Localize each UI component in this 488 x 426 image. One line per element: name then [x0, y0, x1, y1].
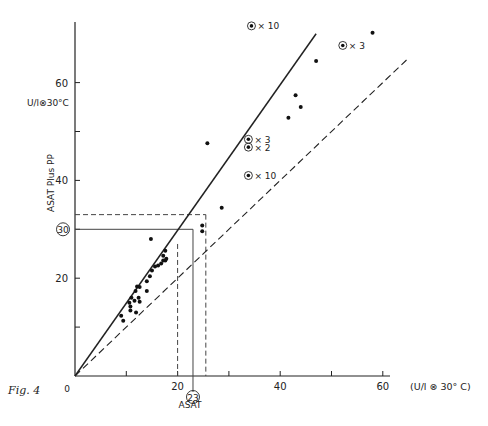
x-tick-label: 20: [171, 381, 184, 392]
multi-point-count: × 10: [257, 21, 279, 31]
x-axis-label: ASAT: [179, 400, 202, 410]
multi-point-count: × 3: [349, 41, 365, 51]
data-point: [299, 105, 303, 109]
data-point: [137, 296, 141, 300]
data-point: [200, 223, 204, 227]
data-point: [149, 237, 153, 241]
data-point: [220, 206, 224, 210]
multi-point-dot: [247, 174, 251, 178]
circled-y-label: 30: [57, 225, 69, 235]
data-point: [205, 141, 209, 145]
data-point: [161, 254, 165, 258]
data-point: [148, 274, 152, 278]
regression-line: [75, 34, 316, 376]
y-ticks: [75, 83, 80, 328]
multiple-points: × 10× 3× 3× 2× 10: [244, 21, 365, 181]
data-point: [129, 296, 133, 300]
data-point: [121, 319, 125, 323]
fit-lines: [75, 34, 408, 376]
data-point: [119, 314, 123, 318]
data-point: [145, 289, 149, 293]
multi-point-dot: [250, 24, 254, 28]
data-point: [294, 93, 298, 97]
data-point: [161, 259, 165, 263]
axis-labels: 20406020406003023ASAT(U/l ⊗ 30° C)U/l⊗30…: [27, 78, 471, 410]
y-axis-unit: U/l⊗30°C: [27, 98, 69, 108]
data-point: [163, 249, 167, 253]
y-tick-label: 20: [55, 273, 68, 284]
scatter-chart: × 10× 3× 3× 2× 10 20406020406003023ASAT(…: [0, 0, 488, 426]
data-point: [134, 289, 138, 293]
y-tick-label: 60: [55, 78, 68, 89]
x-tick-label: 40: [274, 381, 287, 392]
y-axis-label: ASAT Plus PP: [46, 154, 56, 212]
axes: [75, 22, 390, 376]
x-ticks: [126, 371, 383, 376]
origin-label: 0: [64, 384, 70, 394]
multi-point-dot: [247, 145, 251, 149]
identity-line: [75, 58, 408, 376]
data-points: [119, 31, 374, 323]
x-tick-label: 60: [376, 381, 389, 392]
data-point: [145, 279, 149, 283]
data-point: [138, 285, 142, 289]
data-point: [127, 301, 131, 305]
multi-point-count: × 10: [254, 171, 276, 181]
multi-point-dot: [247, 138, 251, 142]
data-point: [138, 300, 142, 304]
data-point: [128, 305, 132, 309]
data-point: [371, 31, 375, 35]
multi-point-dot: [341, 44, 345, 48]
data-point: [314, 59, 318, 63]
figure-caption: Fig. 4: [8, 384, 40, 397]
multi-point-count: × 2: [254, 143, 270, 153]
data-point: [128, 308, 132, 312]
data-point: [133, 299, 137, 303]
data-point: [200, 229, 204, 233]
y-tick-label: 40: [55, 175, 68, 186]
data-point: [134, 310, 138, 314]
x-axis-unit: (U/l ⊗ 30° C): [410, 381, 471, 392]
data-point: [286, 116, 290, 120]
data-point: [150, 268, 154, 272]
